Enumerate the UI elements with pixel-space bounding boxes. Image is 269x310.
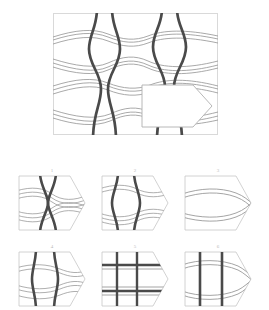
option-2-label: 2 bbox=[101, 167, 169, 174]
option-4-svg bbox=[18, 251, 86, 307]
option-3-art bbox=[184, 175, 252, 231]
option-2-svg bbox=[101, 175, 169, 231]
option-1-label: 1 bbox=[18, 167, 86, 174]
option-3-frame bbox=[185, 176, 251, 230]
option-2[interactable]: 2 bbox=[101, 167, 169, 233]
option-5-label: 5 bbox=[101, 243, 169, 250]
option-5-svg bbox=[101, 251, 169, 307]
option-3-label: 3 bbox=[184, 167, 252, 174]
pattern-panel[interactable] bbox=[53, 13, 218, 135]
option-3-svg bbox=[184, 175, 252, 231]
option-6-label: 6 bbox=[184, 243, 252, 250]
option-6[interactable]: 6 bbox=[184, 243, 252, 309]
option-5-art bbox=[101, 251, 169, 307]
option-3[interactable]: 3 bbox=[184, 167, 252, 233]
puzzle-root: 1 bbox=[0, 0, 269, 310]
option-5-frame bbox=[102, 252, 168, 306]
option-6-svg bbox=[184, 251, 252, 307]
option-2-art bbox=[101, 175, 169, 231]
option-4-art bbox=[18, 251, 86, 307]
option-1[interactable]: 1 bbox=[18, 167, 86, 233]
option-1-art bbox=[18, 175, 86, 231]
option-6-art bbox=[184, 251, 252, 307]
option-5[interactable]: 5 bbox=[101, 243, 169, 309]
pattern-panel-svg bbox=[53, 13, 218, 135]
option-4[interactable]: 4 bbox=[18, 243, 86, 309]
option-1-svg bbox=[18, 175, 86, 231]
option-4-label: 4 bbox=[18, 243, 86, 250]
